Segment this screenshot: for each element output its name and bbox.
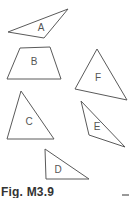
shapes-canvas: [0, 0, 133, 198]
shape-d: [45, 149, 89, 179]
label-e: E: [94, 122, 101, 132]
label-d: D: [54, 165, 61, 175]
label-c: C: [25, 117, 32, 127]
label-a: A: [38, 23, 45, 33]
label-b: B: [31, 57, 38, 67]
corner-mark: [122, 194, 129, 196]
figure: A B F C E D Fig. M3.9: [0, 0, 133, 198]
shape-e: [81, 101, 125, 147]
shape-c: [7, 91, 54, 139]
label-f: F: [95, 73, 101, 83]
figure-caption: Fig. M3.9: [1, 185, 54, 198]
